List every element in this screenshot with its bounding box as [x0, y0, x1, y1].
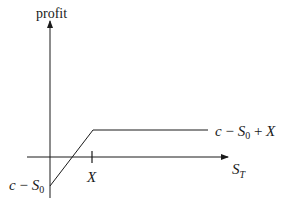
cap-label: c − S0 + X — [215, 123, 276, 141]
x-axis-label: ST — [232, 161, 247, 180]
payoff-diagram: profit ST X c − S0 c − S0 + X — [0, 0, 289, 213]
intercept-label: c − S0 — [9, 177, 44, 195]
strike-label: X — [86, 169, 97, 185]
y-axis-label: profit — [36, 6, 67, 21]
payoff-line — [50, 130, 208, 186]
